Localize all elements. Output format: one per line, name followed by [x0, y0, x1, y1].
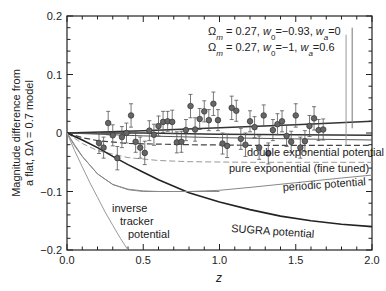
y-tick-label: 0.1: [47, 69, 62, 81]
data-point: [128, 113, 134, 119]
data-point: [247, 119, 253, 125]
data-point: [215, 117, 221, 123]
data-point: [279, 119, 285, 125]
annotation: SUGRA potential: [231, 222, 315, 240]
y-tick-label: 0: [56, 127, 62, 139]
data-point: [133, 139, 139, 145]
y-tick-labels: 0.20.10−0.1−0.2: [40, 10, 62, 256]
data-point: [115, 155, 121, 161]
data-point: [124, 130, 130, 136]
data-point: [201, 109, 207, 115]
data-point: [183, 127, 189, 133]
data-point: [105, 120, 111, 126]
data-point: [293, 113, 299, 119]
data-point: [151, 132, 157, 138]
chart: 0.20.10−0.1−0.2 0.00.51.01.52.0 z Magnit…: [0, 0, 386, 291]
annotation: inverse: [112, 202, 147, 214]
annotation: pure exponential (fine tuned): [229, 162, 369, 174]
data-point: [206, 117, 212, 123]
data-point: [101, 145, 107, 151]
data-point: [284, 133, 290, 139]
data-point: [211, 101, 217, 107]
data-point: [307, 123, 313, 129]
data-point: [311, 116, 317, 122]
data-point: [137, 145, 143, 151]
data-point: [270, 127, 276, 133]
data-point: [320, 127, 326, 133]
data-point: [192, 127, 198, 133]
data-point: [197, 116, 203, 122]
x-tick-label: 1.5: [288, 254, 303, 266]
annotation: potential: [128, 228, 170, 240]
legend-entry-1: Ωm = 0.27, w0=−0.93, wa=0: [208, 25, 341, 42]
model-curve: [67, 133, 128, 250]
legend: Ωm = 0.27, w0=−0.93, wa=0Ωm = 0.27, w0=−…: [208, 25, 341, 58]
data-point: [119, 134, 125, 140]
x-tick-label: 0.0: [59, 254, 74, 266]
data-point: [110, 133, 116, 139]
annotation: tracker: [120, 215, 154, 227]
data-point: [238, 136, 244, 142]
data-point: [147, 128, 153, 134]
x-tick-label: 0.5: [136, 254, 151, 266]
annotation: periodic potential: [282, 175, 366, 193]
y-tick-label: 0.2: [47, 10, 62, 22]
data-point: [252, 124, 258, 130]
data-point: [302, 138, 308, 144]
data-point: [288, 139, 294, 145]
y-tick-label: −0.1: [40, 186, 62, 198]
data-point: [261, 113, 267, 119]
data-point: [233, 108, 239, 114]
legend-entry-2: Ωm = 0.27, w0=−1, wa=0.6: [208, 41, 335, 58]
x-tick-labels: 0.00.51.01.52.0: [59, 254, 379, 266]
data-point: [224, 143, 230, 149]
data-point: [96, 140, 102, 146]
data-point: [156, 123, 162, 129]
x-tick-label: 1.0: [212, 254, 227, 266]
x-tick-label: 2.0: [364, 254, 379, 266]
data-point: [179, 139, 185, 145]
legend-markers: [346, 28, 352, 146]
data-point: [142, 150, 148, 156]
x-axis-label: z: [215, 271, 222, 285]
y-axis-label-line1: Magnitude difference from: [10, 69, 22, 197]
y-axis-label: Magnitude difference from a flat, ΩΛ = 0…: [10, 69, 35, 197]
y-axis-label-line2: a flat, ΩΛ = 0.7 model: [23, 80, 35, 186]
annotation: double exponential potential: [247, 146, 384, 158]
data-point: [188, 103, 194, 109]
data-point: [169, 119, 175, 125]
